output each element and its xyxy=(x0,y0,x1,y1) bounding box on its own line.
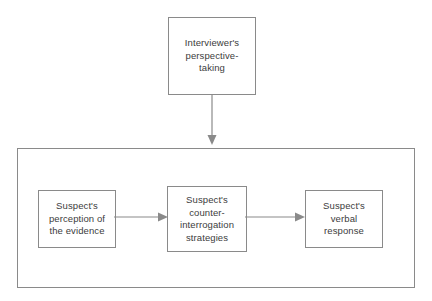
node-interviewer-perspective-taking[interactable]: Interviewer's perspective-taking xyxy=(168,17,256,95)
node-suspect-counter-interrogation-strategies[interactable]: Suspect's counter-interrogation strategi… xyxy=(167,186,247,252)
flowchart-diagram: Interviewer's perspective-taking Suspect… xyxy=(0,0,432,301)
node-suspect-counter-interrogation-strategies-label: Suspect's counter-interrogation strategi… xyxy=(168,194,246,244)
node-interviewer-perspective-taking-label: Interviewer's perspective-taking xyxy=(169,37,255,75)
node-suspect-perception-of-evidence[interactable]: Suspect's perception of the evidence xyxy=(38,190,116,248)
node-suspect-perception-of-evidence-label: Suspect's perception of the evidence xyxy=(39,200,115,238)
node-suspect-verbal-response[interactable]: Suspect's verbal response xyxy=(305,190,383,248)
arrow-interviewer-to-container-icon xyxy=(196,94,228,148)
node-suspect-verbal-response-label: Suspect's verbal response xyxy=(306,200,382,238)
